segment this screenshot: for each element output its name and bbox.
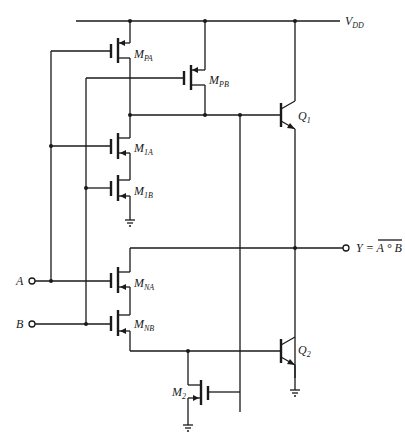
svg-text:MNA: MNA [133, 276, 154, 292]
vdd-label: VDD [345, 14, 364, 30]
ground-icon [125, 220, 135, 226]
transistor-m1b: M1B [84, 175, 153, 226]
vdd-rail: VDD [76, 14, 364, 30]
transistor-mnb: B MNB [16, 310, 154, 351]
svg-text:MNB: MNB [133, 317, 154, 333]
transistor-mpb: MPB [86, 21, 229, 115]
transistor-mpa: MPA [51, 21, 153, 115]
input-label-a: A [15, 274, 24, 288]
output-label: Y = A ° B [356, 241, 402, 255]
input-terminal-b[interactable] [29, 321, 35, 327]
svg-text:MPA: MPA [133, 47, 153, 63]
node-q1-base [128, 113, 280, 412]
transistor-mna: A MNA [15, 248, 154, 315]
svg-text:M1A: M1A [133, 141, 153, 157]
svg-text:M1B: M1B [133, 184, 153, 200]
ground-icon [290, 390, 300, 396]
ground-icon [183, 425, 193, 431]
transistor-m1a: M1A [49, 115, 153, 180]
transistor-q2: Q2 [281, 337, 311, 396]
input-terminal-a[interactable] [29, 278, 35, 284]
svg-text:MPB: MPB [208, 73, 229, 89]
svg-text:Q2: Q2 [298, 343, 311, 359]
input-label-b: B [16, 317, 24, 331]
bicmos-nand-schematic: VDD MPA MPB Q [0, 0, 405, 440]
svg-text:Q1: Q1 [298, 109, 311, 125]
output-terminal[interactable] [343, 245, 349, 251]
output-node: Y = A ° B [130, 240, 402, 255]
node-q2-base [130, 349, 280, 353]
transistor-m2: M2 [171, 351, 240, 431]
transistor-q1: Q1 [281, 21, 311, 378]
svg-text:M2: M2 [171, 385, 186, 401]
